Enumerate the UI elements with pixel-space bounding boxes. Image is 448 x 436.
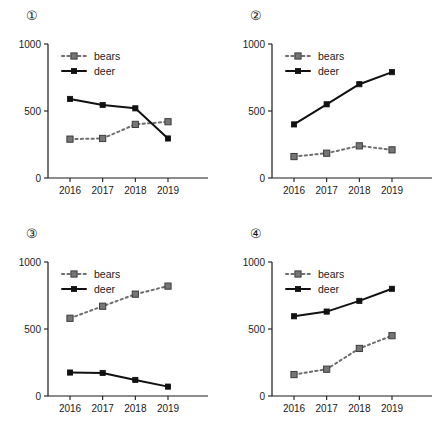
data-point-deer (67, 370, 72, 375)
data-point-bears (324, 150, 330, 156)
data-point-bears (165, 119, 171, 125)
chart-panel-2: ②050010002016201720182019bearsdeer (224, 0, 448, 218)
y-tick-label: 1000 (243, 257, 266, 268)
legend-label-deer: deer (94, 283, 116, 295)
y-tick-label: 0 (259, 173, 265, 184)
x-tick-label: 2019 (381, 403, 404, 414)
data-point-deer (133, 106, 138, 111)
data-point-deer (389, 286, 394, 291)
legend-label-deer: deer (94, 65, 116, 77)
legend-item-deer: deer (62, 65, 116, 77)
legend-swatch-marker-deer (295, 68, 300, 73)
y-tick-label: 1000 (243, 39, 266, 50)
legend-swatch-marker-deer (295, 286, 300, 291)
chart-panel-3: ③050010002016201720182019bearsdeer (0, 218, 224, 436)
data-point-deer (324, 309, 329, 314)
data-point-bears (291, 153, 297, 159)
data-point-deer (133, 377, 138, 382)
x-tick-label: 2019 (157, 403, 180, 414)
data-point-deer (324, 102, 329, 107)
plot-area: 050010002016201720182019bearsdeer (224, 0, 448, 218)
x-tick-label: 2016 (283, 403, 306, 414)
y-tick-label: 1000 (19, 39, 42, 50)
y-tick-label: 500 (24, 324, 41, 335)
plot-area: 050010002016201720182019bearsdeer (224, 218, 448, 436)
data-point-bears (356, 143, 362, 149)
data-point-bears (324, 366, 330, 372)
legend-item-bears: bears (286, 50, 344, 62)
y-tick-label: 0 (35, 173, 41, 184)
data-point-bears (67, 315, 73, 321)
legend-label-bears: bears (94, 50, 120, 62)
x-tick-label: 2017 (92, 403, 115, 414)
data-point-deer (67, 96, 72, 101)
series-line-deer (70, 373, 168, 387)
x-tick-label: 2018 (348, 403, 371, 414)
series-line-deer (294, 289, 392, 316)
chart-panel-4: ④050010002016201720182019bearsdeer (224, 218, 448, 436)
series-line-bears (70, 286, 168, 318)
legend-item-bears: bears (286, 268, 344, 280)
y-tick-label: 1000 (19, 257, 42, 268)
legend-item-deer: deer (62, 283, 116, 295)
legend-label-bears: bears (318, 50, 344, 62)
data-point-bears (100, 303, 106, 309)
plot-area: 050010002016201720182019bearsdeer (0, 0, 224, 218)
x-tick-label: 2016 (59, 185, 82, 196)
y-tick-label: 500 (24, 106, 41, 117)
legend-swatch-marker-bears (71, 271, 77, 277)
chart-panel-1: ①050010002016201720182019bearsdeer (0, 0, 224, 218)
x-tick-label: 2019 (157, 185, 180, 196)
x-tick-label: 2018 (348, 185, 371, 196)
data-point-deer (100, 102, 105, 107)
series-line-bears (294, 146, 392, 157)
data-point-deer (291, 314, 296, 319)
data-point-bears (100, 135, 106, 141)
series-line-deer (70, 99, 168, 139)
data-point-bears (132, 121, 138, 127)
legend-swatch-marker-deer (71, 68, 76, 73)
legend-swatch-marker-bears (295, 53, 301, 59)
x-tick-label: 2016 (59, 403, 82, 414)
legend-label-deer: deer (318, 65, 340, 77)
y-tick-label: 500 (248, 324, 265, 335)
data-point-deer (357, 82, 362, 87)
legend-swatch-marker-deer (71, 286, 76, 291)
x-tick-label: 2018 (124, 185, 147, 196)
legend-item-bears: bears (62, 268, 120, 280)
x-tick-label: 2017 (316, 403, 339, 414)
data-point-bears (389, 333, 395, 339)
data-point-deer (357, 298, 362, 303)
legend-item-deer: deer (286, 65, 340, 77)
y-tick-label: 500 (248, 106, 265, 117)
data-point-bears (389, 147, 395, 153)
series-line-bears (294, 336, 392, 375)
legend-label-bears: bears (318, 268, 344, 280)
data-point-deer (165, 384, 170, 389)
legend-swatch-marker-bears (71, 53, 77, 59)
data-point-bears (291, 371, 297, 377)
data-point-deer (389, 70, 394, 75)
x-tick-label: 2017 (316, 185, 339, 196)
data-point-deer (100, 370, 105, 375)
legend-item-deer: deer (286, 283, 340, 295)
series-line-deer (294, 72, 392, 124)
data-point-bears (165, 283, 171, 289)
y-tick-label: 0 (35, 391, 41, 402)
data-point-deer (165, 136, 170, 141)
x-tick-label: 2019 (381, 185, 404, 196)
legend-label-deer: deer (318, 283, 340, 295)
data-point-bears (356, 345, 362, 351)
legend-item-bears: bears (62, 50, 120, 62)
data-point-bears (132, 291, 138, 297)
x-tick-label: 2016 (283, 185, 306, 196)
data-point-bears (67, 136, 73, 142)
x-tick-label: 2018 (124, 403, 147, 414)
y-tick-label: 0 (259, 391, 265, 402)
x-tick-label: 2017 (92, 185, 115, 196)
chart-figure: ①050010002016201720182019bearsdeer②05001… (0, 0, 448, 436)
legend-label-bears: bears (94, 268, 120, 280)
legend-swatch-marker-bears (295, 271, 301, 277)
data-point-deer (291, 122, 296, 127)
plot-area: 050010002016201720182019bearsdeer (0, 218, 224, 436)
